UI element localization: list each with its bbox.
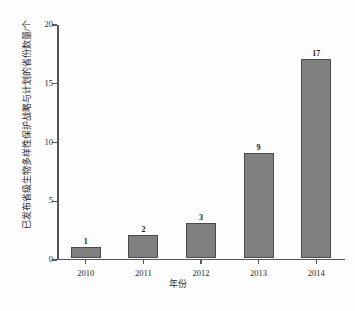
bar-value-label: 2 xyxy=(141,225,145,234)
y-axis-title: 已发布省级生物多样性保护战略与计划的省份数量/个 xyxy=(20,7,33,243)
bar-value-label: 1 xyxy=(84,237,88,246)
y-tick-label: 10 xyxy=(45,137,54,147)
bar: 17 xyxy=(301,59,331,259)
bar: 3 xyxy=(186,223,216,258)
x-tick-mark xyxy=(316,259,317,264)
bar: 1 xyxy=(71,247,101,259)
bar: 9 xyxy=(244,153,274,259)
plot-area: 05101520 20102011201220132014 123917 xyxy=(57,25,345,260)
bar: 2 xyxy=(128,235,158,259)
y-tick-label: 15 xyxy=(45,78,54,88)
y-axis-line xyxy=(57,25,59,260)
y-tick-label: 0 xyxy=(49,254,53,264)
y-tick-label: 5 xyxy=(49,195,53,205)
y-tick-label: 20 xyxy=(45,19,54,29)
bar-value-label: 9 xyxy=(257,143,261,152)
x-tick-mark xyxy=(258,259,259,264)
bar-value-label: 17 xyxy=(312,49,320,58)
bar-value-label: 3 xyxy=(199,213,203,222)
x-axis-title: 年份 xyxy=(0,277,355,290)
x-tick-mark xyxy=(200,259,201,264)
x-tick-mark xyxy=(143,259,144,264)
x-tick-mark xyxy=(85,259,86,264)
bar-chart-figure: 已发布省级生物多样性保护战略与计划的省份数量/个 05101520 201020… xyxy=(0,0,355,311)
